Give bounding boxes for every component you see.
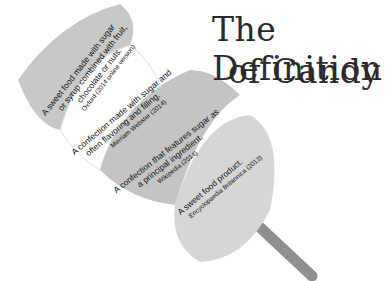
title-line-2: of Candy (228, 52, 381, 91)
